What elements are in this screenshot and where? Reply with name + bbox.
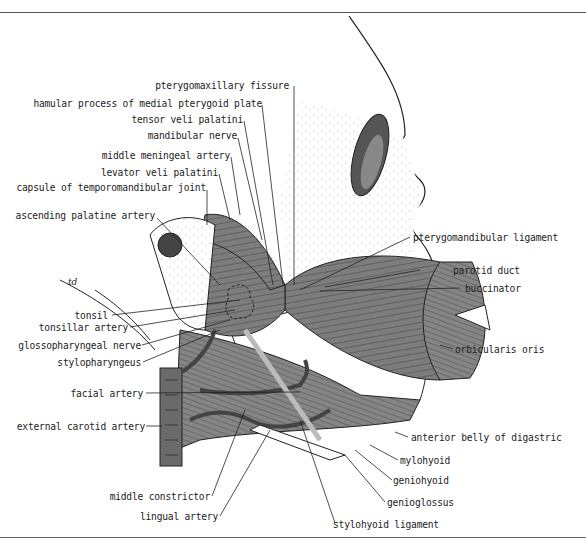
bottom-rule — [0, 537, 586, 538]
label-orbicularis-oris: orbicularis oris — [455, 344, 544, 355]
label-tonsillar-artery: tonsillar artery — [39, 322, 128, 333]
label-pterygomaxillary-fissure: pterygomaxillary fissure — [155, 80, 289, 91]
label-external-carotid-artery: external carotid artery — [17, 421, 145, 432]
label-mandibular-nerve: mandibular nerve — [148, 130, 237, 141]
illustrator-mark: td — [68, 277, 77, 288]
label-mylohyoid: mylohyoid — [400, 455, 450, 466]
label-hamular-process: hamular process of medial pterygoid plat… — [33, 98, 262, 109]
label-anterior-belly-digastric: anterior belly of digastric — [411, 432, 562, 443]
label-tensor-veli-palatini: tensor veli palatini — [131, 114, 243, 125]
label-middle-constrictor: middle constrictor — [110, 491, 210, 502]
label-genioglossus: genioglossus — [387, 497, 454, 508]
label-geniohyoid: geniohyoid — [393, 475, 449, 486]
label-stylohyoid-ligament: stylohyoid ligament — [333, 519, 439, 530]
label-tonsil: tonsil — [75, 310, 108, 321]
label-stylopharyngeus: stylopharyngeus — [57, 357, 141, 368]
label-levator-veli-palatini: levator veli palatini — [101, 167, 218, 178]
mastoid — [158, 233, 182, 257]
label-parotid-duct: parotid duct — [453, 265, 520, 276]
label-pterygomandibular-ligament: pterygomandibular ligament — [413, 232, 558, 243]
label-glossopharyngeal-nerve: glossopharyngeal nerve — [18, 340, 141, 351]
external-carotid-artery-shape — [160, 368, 182, 466]
label-facial-artery: facial artery — [71, 388, 144, 399]
label-capsule-tmj: capsule of temporomandibular joint — [16, 182, 206, 193]
label-middle-meningeal-artery: middle meningeal artery — [102, 150, 230, 161]
label-buccinator: buccinator — [465, 283, 521, 294]
label-lingual-artery: lingual artery — [140, 511, 218, 522]
label-ascending-palatine-artery: ascending palatine artery — [16, 210, 155, 221]
